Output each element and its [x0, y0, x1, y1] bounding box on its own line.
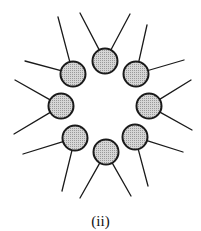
lipid-tail-2	[160, 112, 192, 130]
lipid-molecule-right	[137, 80, 193, 130]
lipid-tail-1	[80, 13, 99, 50]
polar-head	[124, 62, 149, 87]
lipid-molecule-upper-right	[124, 25, 185, 87]
lipid-molecules	[14, 13, 192, 198]
lipid-tail-1	[160, 80, 191, 99]
polar-head	[137, 94, 162, 119]
lipid-molecule-left	[14, 80, 74, 134]
polar-head	[63, 126, 88, 151]
lipid-molecule-lower-right	[123, 125, 184, 187]
lipid-molecule-top	[80, 13, 130, 74]
lipid-tail-2	[111, 14, 130, 50]
micelle-diagram	[0, 0, 201, 231]
polar-head	[61, 62, 86, 87]
lipid-tail-1	[80, 163, 100, 198]
lipid-tail-1	[25, 61, 61, 71]
lipid-molecule-bottom	[80, 140, 131, 199]
polar-head	[94, 140, 119, 165]
lipid-tail-2	[148, 60, 184, 71]
lipid-tail-2	[138, 149, 148, 186]
lipid-molecule-lower-left	[23, 126, 88, 192]
lipid-tail-2	[58, 17, 70, 62]
polar-head	[123, 125, 148, 150]
lipid-tail-1	[139, 25, 147, 62]
lipid-tail-1	[147, 141, 183, 152]
lipid-molecule-upper-left	[25, 17, 86, 87]
lipid-tail-2	[112, 163, 131, 196]
figure-caption: (ii)	[0, 213, 201, 230]
lipid-tail-1	[23, 142, 63, 154]
polar-head	[93, 49, 118, 74]
lipid-tail-2	[62, 150, 72, 191]
lipid-tail-2	[14, 112, 50, 134]
lipid-tail-1	[15, 80, 50, 100]
polar-head	[49, 94, 74, 119]
